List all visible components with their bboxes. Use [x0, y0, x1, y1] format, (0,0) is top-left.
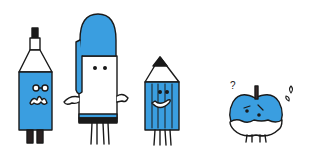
pencil-character [145, 57, 179, 145]
pen-character [64, 14, 128, 144]
illustration-canvas: Hand-drawn cartoon characters: a marker,… [0, 0, 315, 167]
apple-character [230, 86, 293, 142]
question-mark-annotation: ? [230, 80, 236, 91]
marker-character [19, 28, 52, 143]
